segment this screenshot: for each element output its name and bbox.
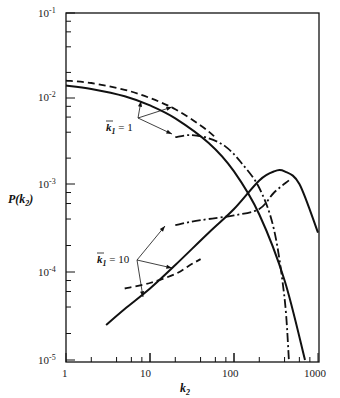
pointer-arrow: [138, 118, 172, 134]
svg-text:k1 = 1: k1 = 1: [106, 121, 133, 136]
annotation-k1-eq-1: k1 = 1: [106, 121, 133, 136]
y-tick-label: 10-2: [38, 90, 56, 103]
x-tick-labels: 1 10 100 1000: [62, 367, 327, 379]
y-tick-label: 10-1: [38, 6, 56, 19]
curve-solid: [66, 86, 305, 360]
y-tick-labels: 10-1 10-2 10-3 10-4 10-5: [38, 6, 56, 366]
y-tick-label: 10-4: [38, 265, 56, 278]
curve-solid: [106, 170, 318, 325]
annotation-arrows: [137, 101, 172, 297]
x-tick-label: 1: [62, 367, 68, 379]
y-tick-label: 10-5: [38, 353, 56, 366]
x-axis-label: k2: [180, 381, 190, 397]
plot-frame: [66, 13, 319, 362]
y-tick-label: 10-3: [38, 177, 56, 190]
arrowhead-icon: [166, 107, 172, 111]
curve-dashed: [125, 259, 201, 288]
y-axis-label: P(k2): [8, 192, 33, 208]
pointer-arrow: [137, 226, 165, 260]
x-tick-label: 1000: [304, 367, 327, 379]
chart: 10-1 10-2 10-3 10-4 10-5 1 10 100 1000 k…: [0, 0, 340, 398]
svg-text:k1 = 10: k1 = 10: [97, 253, 130, 268]
annotation-k1-eq-10: k1 = 10: [97, 253, 130, 268]
arrowhead-icon: [166, 130, 172, 134]
x-tick-label: 100: [222, 367, 239, 379]
data-curves: [66, 81, 318, 360]
plot-border: [66, 13, 319, 362]
x-tick-label: 10: [140, 367, 152, 379]
